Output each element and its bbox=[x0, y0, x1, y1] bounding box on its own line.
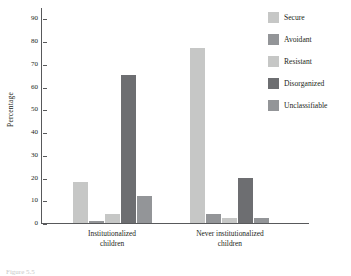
figure-caption: Figure 5.5 bbox=[6, 268, 35, 276]
bar-disorganized-group-1 bbox=[121, 75, 136, 223]
bar-unclassifiable-group-1 bbox=[137, 196, 152, 223]
y-axis-tick-mark bbox=[43, 133, 47, 134]
y-axis-tick: 0 bbox=[15, 224, 47, 225]
bar-avoidant-group-2 bbox=[206, 214, 221, 223]
y-axis-tick-label: 20 bbox=[14, 174, 38, 182]
y-axis-tick-mark bbox=[43, 179, 47, 180]
y-axis-tick: 50 bbox=[15, 110, 47, 111]
y-axis-tick: 70 bbox=[15, 65, 47, 66]
y-axis-tick: 20 bbox=[15, 179, 47, 180]
y-axis-tick-mark bbox=[43, 224, 47, 225]
x-axis-category-label-line: children bbox=[52, 239, 172, 249]
legend-item-resistant[interactable]: Resistant bbox=[268, 50, 351, 72]
legend-swatch-icon bbox=[268, 34, 279, 45]
x-axis-category-label-line: children bbox=[170, 239, 290, 249]
legend-swatch-icon bbox=[268, 100, 279, 111]
x-axis-category-label-line: Never institutionalized bbox=[170, 229, 290, 239]
legend-label: Resistant bbox=[284, 57, 312, 66]
legend-swatch-icon bbox=[268, 12, 279, 23]
legend-swatch-icon bbox=[268, 56, 279, 67]
x-axis-line bbox=[41, 223, 309, 224]
y-axis-tick-label: 60 bbox=[14, 83, 38, 91]
bar-resistant-group-1 bbox=[105, 214, 120, 223]
x-axis-category-label-line: Institutionalized bbox=[52, 229, 172, 239]
y-axis-tick-label: 30 bbox=[14, 151, 38, 159]
bar-chart-figure: Percentage 0102030405060708090 Instituti… bbox=[0, 0, 351, 276]
bar-unclassifiable-group-2 bbox=[254, 218, 269, 223]
x-axis-category-label: Institutionalizedchildren bbox=[52, 229, 172, 248]
bar-avoidant-group-1 bbox=[89, 221, 104, 223]
y-axis-tick-label: 50 bbox=[14, 105, 38, 113]
bar-secure-group-2 bbox=[190, 48, 205, 223]
legend-item-avoidant[interactable]: Avoidant bbox=[268, 28, 351, 50]
y-axis-tick-label: 40 bbox=[14, 128, 38, 136]
legend-item-disorganized[interactable]: Disorganized bbox=[268, 72, 351, 94]
legend-item-secure[interactable]: Secure bbox=[268, 6, 351, 28]
legend-label: Secure bbox=[284, 13, 305, 22]
legend-item-unclassifiable[interactable]: Unclassifiable bbox=[268, 94, 351, 116]
legend-label: Disorganized bbox=[284, 79, 324, 88]
y-axis-tick-mark bbox=[43, 201, 47, 202]
chart-legend: SecureAvoidantResistantDisorganizedUncla… bbox=[268, 6, 351, 116]
y-axis-tick: 90 bbox=[15, 19, 47, 20]
x-axis-category-label: Never institutionalizedchildren bbox=[170, 229, 290, 248]
y-axis-tick-mark bbox=[43, 110, 47, 111]
y-axis-tick-label: 0 bbox=[14, 219, 38, 227]
y-axis-tick-label: 70 bbox=[14, 60, 38, 68]
bar-disorganized-group-2 bbox=[238, 178, 253, 223]
bar-secure-group-1 bbox=[73, 182, 88, 223]
legend-label: Unclassifiable bbox=[284, 101, 327, 110]
bar-resistant-group-2 bbox=[222, 218, 237, 223]
legend-swatch-icon bbox=[268, 78, 279, 89]
y-axis-tick: 40 bbox=[15, 133, 47, 134]
y-axis-tick: 80 bbox=[15, 42, 47, 43]
y-axis-line bbox=[41, 8, 42, 224]
y-axis-tick: 60 bbox=[15, 88, 47, 89]
y-axis-tick-mark bbox=[43, 88, 47, 89]
y-axis-tick-mark bbox=[43, 19, 47, 20]
y-axis-tick-label: 10 bbox=[14, 196, 38, 204]
legend-label: Avoidant bbox=[284, 35, 312, 44]
y-axis-tick-mark bbox=[43, 65, 47, 66]
y-axis-tick-label: 80 bbox=[14, 37, 38, 45]
y-axis-tick: 30 bbox=[15, 156, 47, 157]
y-axis-tick: 10 bbox=[15, 201, 47, 202]
y-axis-tick-label: 90 bbox=[14, 14, 38, 22]
y-axis-tick-mark bbox=[43, 156, 47, 157]
y-axis-tick-mark bbox=[43, 42, 47, 43]
